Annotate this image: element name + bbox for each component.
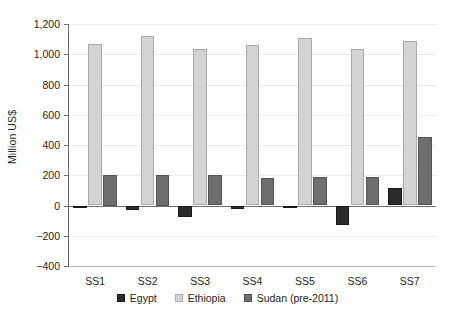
bar bbox=[193, 49, 207, 206]
bar bbox=[126, 206, 140, 211]
plot-area: 1,2001,0008006004002000−200−400SS1SS2SS3… bbox=[68, 24, 436, 266]
bar bbox=[298, 38, 312, 206]
bar bbox=[261, 178, 275, 206]
y-axis-tick-label: 800 bbox=[42, 79, 60, 91]
x-axis-tick-label: SS7 bbox=[384, 275, 436, 287]
bar bbox=[246, 45, 260, 206]
bar bbox=[141, 36, 155, 205]
bar bbox=[366, 177, 380, 206]
legend-item: Sudan (pre-2011) bbox=[244, 292, 339, 304]
bar bbox=[313, 177, 327, 205]
y-axis-tick bbox=[64, 266, 69, 267]
bar-group: SS3 bbox=[174, 24, 226, 266]
y-axis-tick-label: 0 bbox=[54, 200, 60, 212]
legend-swatch-icon bbox=[175, 294, 183, 302]
y-axis-tick-label: 400 bbox=[42, 139, 60, 151]
bar bbox=[388, 188, 402, 205]
bar bbox=[156, 175, 170, 205]
y-axis-tick-label: 1,200 bbox=[34, 18, 60, 30]
bar bbox=[336, 206, 350, 226]
y-axis-title: Million US$ bbox=[6, 2, 20, 272]
x-axis-tick-label: SS3 bbox=[174, 275, 226, 287]
legend-label: Egypt bbox=[130, 292, 157, 304]
y-axis-tick-label: −400 bbox=[36, 260, 60, 272]
bar bbox=[73, 206, 87, 208]
legend-label: Sudan (pre-2011) bbox=[257, 292, 339, 304]
y-axis-tick-label: 1,000 bbox=[34, 48, 60, 60]
x-axis-tick-label: SS1 bbox=[69, 275, 121, 287]
bar bbox=[403, 41, 417, 206]
bar bbox=[283, 206, 297, 208]
bar bbox=[418, 137, 432, 206]
bar bbox=[208, 175, 222, 206]
y-axis-tick-label: 600 bbox=[42, 109, 60, 121]
gridline bbox=[69, 266, 436, 267]
legend-item: Ethiopia bbox=[175, 292, 226, 304]
bar bbox=[103, 175, 117, 205]
bar-group: SS4 bbox=[226, 24, 278, 266]
bar bbox=[178, 206, 192, 217]
x-axis-tick-label: SS2 bbox=[121, 275, 173, 287]
x-axis-tick-label: SS4 bbox=[226, 275, 278, 287]
bar bbox=[88, 44, 102, 206]
legend-swatch-icon bbox=[244, 294, 252, 302]
legend-label: Ethiopia bbox=[188, 292, 226, 304]
bar bbox=[231, 206, 245, 209]
bar-group: SS6 bbox=[331, 24, 383, 266]
bar-group: SS1 bbox=[69, 24, 121, 266]
chart-legend: EgyptEthiopiaSudan (pre-2011) bbox=[0, 292, 455, 304]
bar-group: SS7 bbox=[384, 24, 436, 266]
bar-group: SS2 bbox=[121, 24, 173, 266]
x-axis-tick-label: SS5 bbox=[279, 275, 331, 287]
legend-swatch-icon bbox=[117, 294, 125, 302]
bar-chart: Million US$ 1,2001,0008006004002000−200−… bbox=[0, 0, 455, 323]
x-axis-tick-label: SS6 bbox=[331, 275, 383, 287]
bar bbox=[351, 49, 365, 205]
legend-item: Egypt bbox=[117, 292, 157, 304]
y-axis-tick-label: −200 bbox=[36, 230, 60, 242]
bar-group: SS5 bbox=[279, 24, 331, 266]
y-axis-tick-label: 200 bbox=[42, 169, 60, 181]
